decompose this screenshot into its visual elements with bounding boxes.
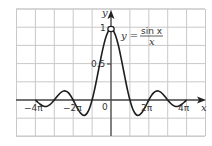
y-tick-label-one: 1	[100, 23, 106, 33]
formula-numerator: sin x	[141, 26, 163, 36]
y-tick-label-half: 0.5	[91, 59, 105, 69]
formula: y = sin x x	[120, 26, 163, 47]
hole-marker	[108, 26, 114, 31]
formula-lhs: y =	[120, 30, 138, 41]
x-tick-label-neg2pi: −2π	[63, 103, 82, 113]
formula-denominator: x	[149, 36, 155, 47]
x-tick-label-neg4pi: −4π	[24, 103, 43, 113]
x-tick-label-2pi: 2π	[141, 103, 153, 113]
x-tick-label-4pi: 4π	[178, 103, 190, 113]
x-axis-label: x	[201, 102, 207, 113]
sinc-chart: y x 0 0.5 1 −4π −2π 2π 4π y = sin x x	[0, 0, 212, 146]
y-axis-label: y	[101, 7, 108, 18]
origin-label: 0	[102, 102, 108, 112]
